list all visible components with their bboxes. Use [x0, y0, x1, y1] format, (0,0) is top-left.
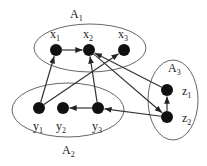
- node-y3: [92, 102, 104, 114]
- edge-z2-to-y3: [104, 109, 161, 116]
- edge-y1-to-x3: [44, 54, 119, 105]
- node-x2-label: x2: [83, 27, 93, 43]
- node-z2: [161, 111, 173, 123]
- node-z2-label: z2: [182, 111, 191, 127]
- group-ellipses: [12, 24, 198, 140]
- node-y2: [57, 102, 69, 114]
- group-a2-label: A2: [62, 143, 75, 159]
- node-y3-label: y3: [92, 119, 102, 135]
- node-y1-label: y1: [33, 119, 43, 135]
- node-x2: [83, 44, 95, 56]
- edge-x2-to-z2: [94, 54, 163, 113]
- node-x1: [50, 44, 62, 56]
- graph-diagram: A1A2A3x1x2x3y1y2y3z1z2: [0, 0, 207, 166]
- group-a3-label: A3: [168, 61, 181, 77]
- node-z1-label: z1: [182, 84, 191, 100]
- edge-y3-to-x2: [90, 56, 97, 102]
- edge-z1-to-x2: [95, 53, 162, 87]
- group-a1-label: A1: [70, 7, 83, 23]
- node-x3: [118, 44, 130, 56]
- node-z1: [161, 84, 173, 96]
- node-y2-label: y2: [56, 119, 66, 135]
- node-y1: [33, 102, 45, 114]
- node-x1-label: x1: [50, 27, 60, 43]
